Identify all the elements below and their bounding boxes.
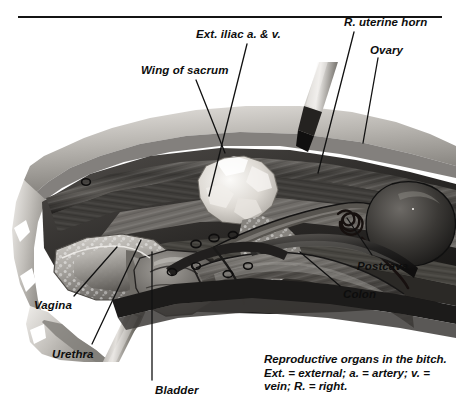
figure-page: Ext. iliac a. & v. R. uterine horn Wing … — [0, 0, 456, 415]
label-bladder: Bladder — [155, 385, 199, 397]
ovary-speck — [412, 208, 414, 210]
label-r-uterine-horn: R. uterine horn — [344, 17, 427, 29]
label-colon: Colon — [343, 289, 376, 301]
caption-line-2: Ext. = external; a. = artery; v. = — [264, 367, 454, 381]
anatomical-illustration — [0, 62, 456, 362]
label-wing-of-sacrum: Wing of sacrum — [141, 65, 229, 77]
caption-line-1: Reproductive organs in the bitch. — [264, 353, 454, 367]
label-ext-iliac: Ext. iliac a. & v. — [196, 29, 281, 41]
figure-caption: Reproductive organs in the bitch. Ext. =… — [264, 353, 454, 394]
caption-line-3: vein; R. = right. — [264, 380, 454, 394]
illustration-body — [12, 62, 456, 362]
label-vagina: Vagina — [34, 300, 72, 312]
label-ovary: Ovary — [370, 45, 403, 57]
label-urethra: Urethra — [52, 349, 94, 361]
label-postcava: Postcava — [357, 261, 408, 273]
